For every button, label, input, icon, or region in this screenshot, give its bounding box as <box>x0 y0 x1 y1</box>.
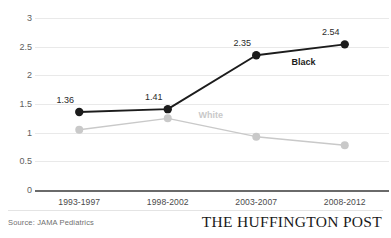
series-line-white <box>79 118 345 145</box>
chart-figure: 00.511.522.53 1.361.412.352.54 Black Whi… <box>0 0 391 238</box>
data-point-label: 1.41 <box>145 92 163 102</box>
data-point-marker <box>75 126 83 134</box>
data-point-marker <box>341 40 349 48</box>
series-label-white: White <box>199 110 224 120</box>
data-point-label: 1.36 <box>56 95 74 105</box>
plot-area: 00.511.522.53 1.361.412.352.54 Black Whi… <box>0 0 391 200</box>
brand-logo: THE HUFFINGTON POST <box>202 213 382 231</box>
data-point-marker <box>75 108 83 116</box>
data-point-label: 2.35 <box>233 38 251 48</box>
data-point-label: 2.54 <box>322 27 340 37</box>
series-label-black: Black <box>291 57 315 67</box>
data-point-marker <box>164 114 172 122</box>
data-point-marker <box>252 51 260 59</box>
chart-footer: Source: JAMA Pediatrics THE HUFFINGTON P… <box>0 210 391 238</box>
data-point-marker <box>252 133 260 141</box>
source-note: Source: JAMA Pediatrics <box>8 218 94 227</box>
series-line-black <box>79 44 345 112</box>
data-point-marker <box>164 105 172 113</box>
footer-divider <box>8 210 383 211</box>
data-point-marker <box>341 141 349 149</box>
